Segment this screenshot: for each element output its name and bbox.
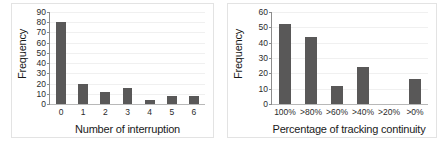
x-tick-label: 5 [161,107,183,117]
x-tick-label: 4 [139,107,161,117]
plot-area-right: 0102030405060 100%>80%>60%>40%>20%>0% [272,12,428,104]
y-tick-label: 60 [259,7,268,17]
bar [409,79,420,104]
bar-slot [376,12,402,104]
bar-slot [50,12,72,104]
y-tick-label: 0 [263,99,268,109]
x-tick-label: >20% [376,107,402,117]
y-tick-label: 80 [37,17,46,27]
bar-slot [298,12,324,104]
x-tick-label: 6 [183,107,205,117]
y-axis-label-right: Frequency [230,4,246,104]
x-axis-label-right: Percentage of tracking continuity [228,123,436,135]
bar [331,86,342,104]
bar-series-left [50,12,205,104]
y-tick-label: 10 [37,89,46,99]
y-tick-label: 50 [37,48,46,58]
y-tick-label: 40 [37,58,46,68]
plot-area-left: 0102030405060708090 0123456 [50,12,205,104]
bar-slot [116,12,138,104]
y-tick-label: 70 [37,27,46,37]
y-tick-label: 90 [37,7,46,17]
x-tick-label: 0 [50,107,72,117]
y-tick-label: 20 [37,79,46,89]
y-tick-label: 60 [37,38,46,48]
x-tick-label: >40% [350,107,376,117]
bar [123,88,133,104]
y-tick-label: 10 [259,84,268,94]
bar-series-right [272,12,428,104]
bar [305,37,316,104]
chart-panel-tracking-continuity: Frequency 0102030405060 100%>80%>60%>40%… [227,3,437,138]
bar-slot [272,12,298,104]
bar-slot [139,12,161,104]
chart-panel-interruptions: Frequency 0102030405060708090 0123456 Nu… [11,3,214,138]
x-tick-labels-left: 0123456 [50,104,205,117]
y-axis-label-left: Frequency [14,4,30,104]
y-tick-label: 0 [41,99,46,109]
bar [167,96,177,104]
bar-slot [183,12,205,104]
x-tick-label: 3 [116,107,138,117]
bar-slot [350,12,376,104]
x-tick-labels-right: 100%>80%>60%>40%>20%>0% [272,104,428,117]
bar [100,92,110,104]
x-tick-label: >60% [324,107,350,117]
bar [357,67,368,104]
bar-slot [324,12,350,104]
y-tick-label: 20 [259,68,268,78]
bar-slot [94,12,116,104]
figure-two-bar-charts: Frequency 0102030405060708090 0123456 Nu… [0,0,442,143]
bar [189,96,199,104]
bar-slot [161,12,183,104]
y-tick-label: 40 [259,38,268,48]
x-axis-label-left: Number of interruption [12,123,213,135]
bar-slot [72,12,94,104]
bar [279,24,290,104]
x-tick-label: 100% [272,107,298,117]
y-tick-label: 30 [259,53,268,63]
bar-slot [402,12,428,104]
y-tick-label: 30 [37,68,46,78]
x-tick-label: 2 [94,107,116,117]
bar [78,84,88,104]
y-tick-label: 50 [259,22,268,32]
bar [56,22,66,104]
x-tick-label: >80% [298,107,324,117]
x-tick-label: 1 [72,107,94,117]
x-tick-label: >0% [402,107,428,117]
